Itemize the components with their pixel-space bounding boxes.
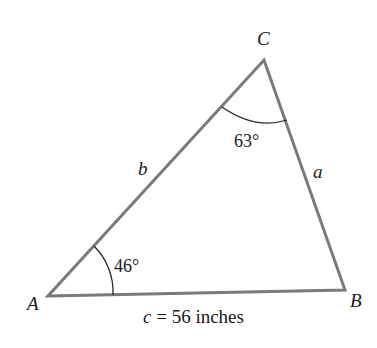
angle-label-c: 63° bbox=[234, 131, 259, 151]
angle-arc-a bbox=[94, 246, 113, 295]
angle-label-a: 46° bbox=[114, 256, 139, 276]
triangle bbox=[48, 60, 345, 296]
triangle-diagram: A B C b a c = 56 inches 46° 63° bbox=[0, 0, 377, 348]
vertex-label-c: C bbox=[257, 28, 270, 49]
side-label-a: a bbox=[313, 161, 323, 182]
angle-arc-c bbox=[222, 107, 287, 123]
vertex-label-b: B bbox=[350, 290, 362, 311]
vertex-label-a: A bbox=[25, 293, 39, 314]
side-c-value: = 56 inches bbox=[151, 306, 244, 327]
side-label-c: c = 56 inches bbox=[143, 306, 244, 327]
side-label-b: b bbox=[138, 158, 148, 179]
